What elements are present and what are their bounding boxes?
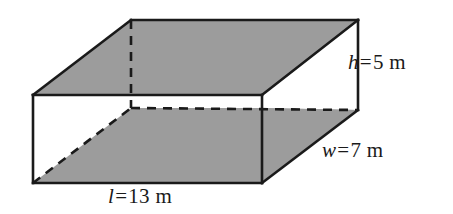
- height-equals: =: [359, 50, 373, 74]
- height-value: 5: [373, 50, 384, 74]
- width-equals: =: [336, 138, 350, 162]
- prism-drawing: [0, 0, 453, 214]
- height-unit: m: [389, 50, 406, 74]
- height-variable: h: [348, 50, 359, 74]
- width-value: 7: [350, 138, 361, 162]
- length-label: l=13 m: [108, 186, 172, 207]
- height-label: h=5 m: [348, 52, 406, 73]
- width-variable: w: [322, 138, 336, 162]
- length-equals: =: [114, 184, 128, 208]
- length-unit: m: [155, 184, 172, 208]
- prism-figure: h=5 m w=7 m l=13 m: [0, 0, 453, 214]
- length-value: 13: [128, 184, 150, 208]
- width-label: w=7 m: [322, 140, 383, 161]
- width-unit: m: [367, 138, 384, 162]
